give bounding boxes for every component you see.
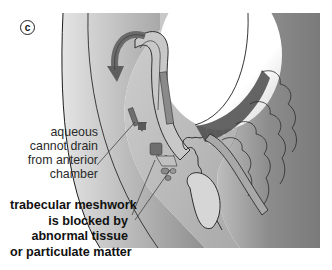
- label-aqueous-cannot-drain: aqueous cannot drain from anterior chamb…: [12, 125, 98, 181]
- label-line: is blocked by: [10, 214, 128, 230]
- label-line: cannot drain: [12, 139, 98, 153]
- label-line: or particulate matter: [10, 245, 128, 261]
- label-line: chamber: [12, 167, 98, 181]
- label-line: aqueous: [12, 125, 98, 139]
- label-trabecular-meshwork-blocked: trabecular meshwork is blocked by abnorm…: [10, 198, 128, 260]
- label-line: from anterior: [12, 153, 98, 167]
- label-line: trabecular meshwork: [10, 198, 128, 214]
- label-line: abnormal tissue: [10, 229, 128, 245]
